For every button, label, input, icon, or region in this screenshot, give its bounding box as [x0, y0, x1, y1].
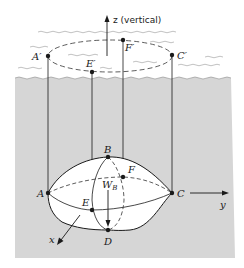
label-f-prime: F′: [124, 42, 135, 53]
point-a: [46, 191, 50, 195]
label-e-prime: E′: [85, 58, 96, 69]
label-a-prime: A′: [31, 51, 42, 62]
z-axis-arrowhead-icon: [105, 15, 110, 22]
point-b: [106, 155, 110, 159]
point-c: [170, 191, 174, 195]
label-b: B: [103, 144, 111, 155]
buoyancy-diagram: z (vertical) WB y: [0, 0, 244, 268]
point-e: [90, 208, 94, 212]
point-e-prime: [90, 70, 94, 74]
label-f: F: [127, 164, 136, 175]
label-c-prime: C′: [177, 50, 188, 61]
point-d: [106, 228, 110, 232]
surface-wave-marks: [18, 31, 223, 69]
label-a: A: [36, 188, 44, 199]
surface-projection-ellipse: [48, 40, 172, 72]
label-d: D: [103, 236, 112, 247]
point-a-prime: [46, 54, 50, 58]
point-f: [121, 175, 125, 179]
y-axis-label: y: [219, 199, 226, 210]
z-axis-label: z (vertical): [113, 15, 161, 25]
label-e: E: [81, 197, 90, 208]
label-c: C: [177, 188, 185, 199]
x-axis-label: x: [49, 234, 55, 245]
point-c-prime: [170, 53, 174, 57]
